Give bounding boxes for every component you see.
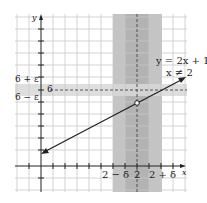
equation-label: y = 2x + 1: [156, 56, 207, 66]
x-tick-two-minus-delta: 2 − δ: [102, 170, 129, 180]
open-point-hole: [135, 101, 140, 106]
x-tick-two-plus-delta: 2 + δ: [149, 170, 176, 180]
y-tick-six-minus-epsilon: 6 − ε: [15, 93, 39, 102]
y-tick-six-plus-epsilon: 6 + ε: [15, 75, 39, 84]
x-tick-two: 2: [134, 170, 140, 180]
y-tick-six: 6: [47, 85, 53, 94]
x-axis-label: x: [182, 169, 187, 177]
condition-label: x ≠ 2: [166, 68, 193, 78]
line-arrow-left-icon: [41, 148, 49, 154]
y-axis-label: y: [32, 14, 37, 22]
